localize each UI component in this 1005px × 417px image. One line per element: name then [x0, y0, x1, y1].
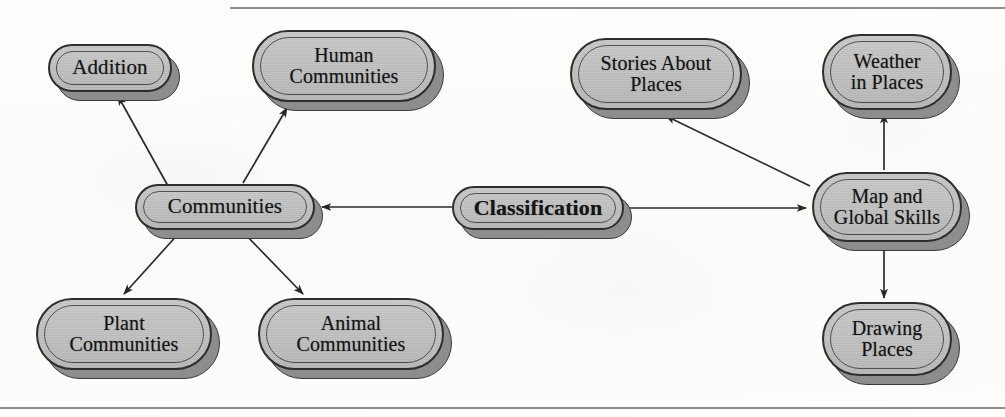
node-human[interactable]: Human Communities: [252, 30, 436, 102]
bottom-rule: [0, 407, 1005, 409]
edge-communities-to-animal: [243, 232, 303, 294]
node-communities[interactable]: Communities: [135, 184, 315, 230]
node-weather[interactable]: Weather in Places: [822, 34, 952, 110]
node-label: Animal Communities: [291, 313, 412, 355]
node-classification[interactable]: Classification: [452, 186, 624, 230]
node-plant[interactable]: Plant Communities: [36, 298, 212, 370]
node-map-global[interactable]: Map and Global Skills: [812, 172, 962, 242]
edge-communities-to-addition: [118, 96, 168, 186]
edge-communities-to-human: [243, 108, 287, 183]
node-body: Plant Communities: [36, 298, 212, 370]
node-stories[interactable]: Stories About Places: [570, 38, 742, 110]
node-body: Communities: [135, 184, 315, 230]
node-label: Weather in Places: [845, 51, 930, 93]
node-label: Human Communities: [284, 45, 405, 87]
node-addition[interactable]: Addition: [48, 44, 172, 92]
node-label: Classification: [468, 197, 609, 219]
node-label: Plant Communities: [64, 313, 185, 355]
top-rule: [230, 7, 1005, 9]
node-body: Animal Communities: [258, 298, 444, 370]
node-body: Addition: [48, 44, 172, 92]
node-body: Weather in Places: [822, 34, 952, 110]
node-drawing[interactable]: Drawing Places: [822, 302, 952, 376]
node-label: Stories About Places: [595, 53, 718, 95]
node-animal[interactable]: Animal Communities: [258, 298, 444, 370]
node-label: Drawing Places: [846, 318, 929, 360]
node-label: Map and Global Skills: [828, 186, 946, 228]
concept-map-figure: AdditionHuman CommunitiesStories About P…: [0, 0, 1005, 417]
node-body: Classification: [452, 186, 624, 230]
node-label: Addition: [66, 57, 153, 78]
node-body: Stories About Places: [570, 38, 742, 110]
node-body: Map and Global Skills: [812, 172, 962, 242]
node-body: Human Communities: [252, 30, 436, 102]
node-label: Communities: [162, 196, 288, 217]
node-body: Drawing Places: [822, 302, 952, 376]
edge-communities-to-plant: [124, 232, 180, 294]
edge-map-to-stories: [666, 116, 810, 186]
